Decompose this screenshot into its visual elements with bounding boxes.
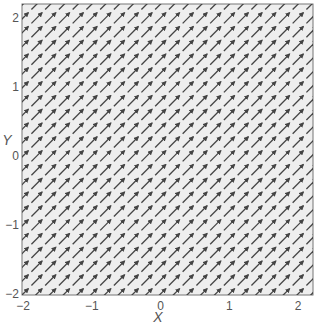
x-tick-label: −2 [16,299,30,313]
y-axis-ticks: −2−1012 [5,11,19,301]
x-tick-label: −1 [85,299,99,313]
quiver-plot: −2−1012 −2−1012 X Y [0,0,316,327]
x-tick-label: 2 [295,299,302,313]
y-tick-label: −1 [5,218,19,232]
y-axis-label: Y [2,132,13,148]
x-axis-label: X [152,309,163,325]
y-tick-label: 2 [12,11,19,25]
y-tick-label: −2 [5,287,19,301]
x-tick-label: 1 [226,299,233,313]
y-tick-label: 1 [12,80,19,94]
y-tick-label: 0 [12,149,19,163]
